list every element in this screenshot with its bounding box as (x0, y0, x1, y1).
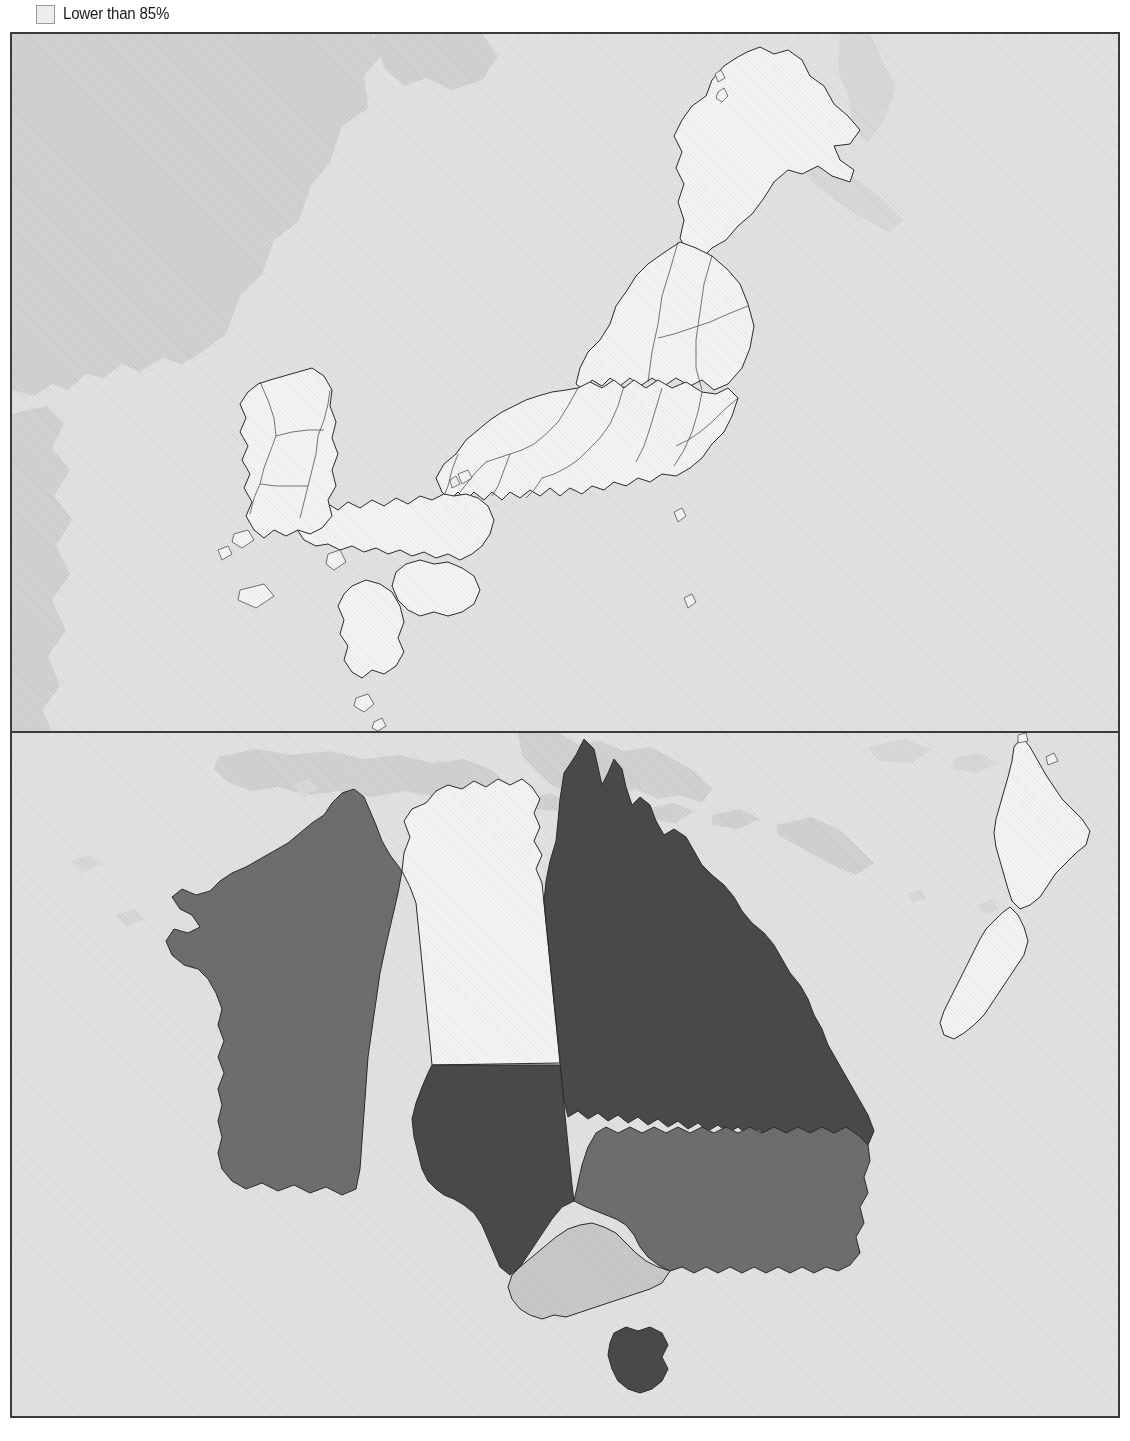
legend: Lower than 85% (36, 1, 176, 27)
japan-korea-svg (12, 34, 1118, 731)
legend-label-lower-than-85: Lower than 85% (63, 5, 169, 23)
legend-swatch-lower-than-85 (36, 5, 55, 24)
australia-nz-svg (12, 733, 1118, 1418)
map-panel-japan-korea[interactable] (12, 34, 1118, 731)
region-kyushu[interactable] (338, 580, 404, 678)
region-south-korea[interactable] (240, 368, 338, 538)
panel-divider (12, 731, 1118, 733)
map-panel-australia-newzealand[interactable] (12, 733, 1118, 1418)
map-frame (10, 32, 1120, 1418)
